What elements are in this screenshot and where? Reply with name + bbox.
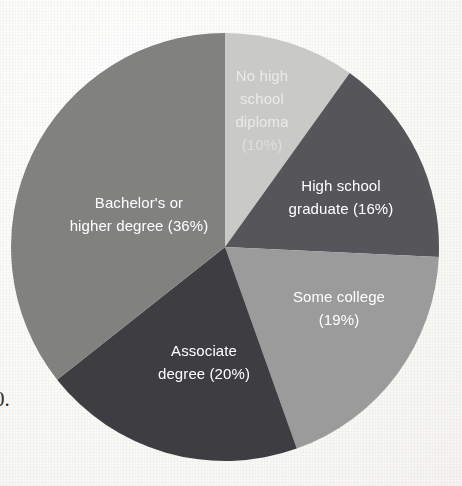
pie-slice-label-line: higher degree (36%) [70, 217, 209, 234]
pie-slice-label-line: diploma [235, 113, 289, 130]
page-margin-glyph: 0. [0, 389, 10, 410]
pie-slice-label-line: Associate [171, 342, 237, 359]
pie-slice-label-line: (10%) [242, 136, 283, 153]
pie-slice-label-line: (19%) [319, 311, 360, 328]
pie-slice-label-line: degree (20%) [158, 365, 250, 382]
pie-slice-label-line: Some college [293, 288, 385, 305]
pie-slice-label-line: school [240, 90, 284, 107]
pie-slice-label-line: Bachelor's or [95, 194, 183, 211]
pie-slice-label-line: No high [236, 67, 288, 84]
pie-slices [11, 33, 439, 461]
pie-chart: No highschooldiploma(10%)High schoolgrad… [0, 0, 462, 486]
pie-slice-label-line: High school [301, 177, 380, 194]
pie-chart-svg: No highschooldiploma(10%)High schoolgrad… [0, 0, 462, 486]
pie-slice-label-line: graduate (16%) [289, 200, 394, 217]
